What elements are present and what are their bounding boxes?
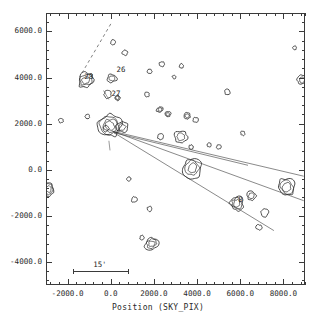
y-tick-right [302, 151, 305, 152]
x-tick-bottom [171, 282, 172, 285]
x-tick-top [93, 13, 94, 16]
y-tick-right [299, 124, 305, 125]
y-tick-left [46, 188, 49, 189]
y-tick-right [302, 253, 305, 254]
y-tick-label: 6000.0 [0, 27, 42, 35]
x-tick-bottom [240, 279, 241, 285]
y-tick-left [46, 271, 49, 272]
x-axis-title: Position (SKY_PIX) [0, 303, 316, 312]
y-tick-left [46, 234, 49, 235]
y-tick-right [302, 188, 305, 189]
x-tick-top [214, 13, 215, 16]
y-tick-left [46, 31, 52, 32]
y-tick-left [46, 142, 49, 143]
y-tick-right [299, 262, 305, 263]
y-tick-left [46, 262, 52, 263]
y-tick-left [46, 13, 49, 14]
y-tick-right [299, 31, 305, 32]
x-tick-bottom [214, 282, 215, 285]
y-tick-left [46, 280, 49, 281]
x-tick-bottom [249, 282, 250, 285]
y-tick-right [302, 142, 305, 143]
y-tick-right [302, 50, 305, 51]
x-tick-bottom [163, 282, 164, 285]
x-tick-top [258, 13, 259, 16]
y-tick-right [302, 271, 305, 272]
y-tick-left [46, 50, 49, 51]
y-tick-right [302, 68, 305, 69]
x-tick-bottom [128, 282, 129, 285]
y-tick-left [46, 244, 49, 245]
x-tick-label: 8000.0 [255, 290, 311, 298]
y-tick-right [302, 13, 305, 14]
x-tick-top [240, 13, 241, 19]
x-tick-top [249, 13, 250, 16]
y-tick-right [302, 133, 305, 134]
source-id-27: 27 [112, 90, 121, 98]
y-tick-left [46, 105, 49, 106]
x-tick-bottom [102, 282, 103, 285]
x-tick-bottom [266, 282, 267, 285]
x-tick-bottom [188, 282, 189, 285]
x-tick-top [76, 13, 77, 16]
x-tick-bottom [68, 279, 69, 285]
x-tick-bottom [59, 282, 60, 285]
y-tick-right [302, 280, 305, 281]
x-tick-top [223, 13, 224, 16]
y-tick-left [46, 253, 49, 254]
y-tick-left [46, 207, 49, 208]
y-tick-label: 4000.0 [0, 74, 42, 82]
x-tick-bottom [301, 282, 302, 285]
y-tick-label: 2000.0 [0, 120, 42, 128]
x-tick-bottom [232, 282, 233, 285]
x-tick-bottom [275, 282, 276, 285]
x-tick-bottom [145, 282, 146, 285]
y-tick-right [302, 161, 305, 162]
y-tick-right [302, 105, 305, 106]
y-tick-right [302, 114, 305, 115]
x-tick-bottom [258, 282, 259, 285]
x-tick-top [292, 13, 293, 16]
x-tick-top [50, 13, 51, 16]
x-tick-top [145, 13, 146, 16]
x-tick-bottom [223, 282, 224, 285]
y-tick-left [46, 151, 49, 152]
x-tick-bottom [197, 279, 198, 285]
x-tick-top [102, 13, 103, 16]
y-tick-right [302, 225, 305, 226]
y-tick-label: -4000.0 [0, 258, 42, 266]
x-tick-bottom [85, 282, 86, 285]
y-tick-label: -2000.0 [0, 212, 42, 220]
x-tick-top [85, 13, 86, 16]
x-tick-top [128, 13, 129, 16]
x-tick-bottom [76, 282, 77, 285]
x-tick-top [163, 13, 164, 16]
y-tick-left [46, 78, 52, 79]
y-tick-right [302, 59, 305, 60]
y-tick-right [299, 170, 305, 171]
x-tick-top [188, 13, 189, 16]
x-tick-bottom [180, 282, 181, 285]
y-tick-right [302, 197, 305, 198]
y-tick-left [46, 59, 49, 60]
y-tick-left [46, 41, 49, 42]
x-tick-top [283, 13, 284, 19]
source-id-8: 8 [238, 196, 242, 204]
y-tick-right [302, 179, 305, 180]
x-tick-bottom [154, 279, 155, 285]
x-tick-bottom [119, 282, 120, 285]
y-tick-left [46, 216, 52, 217]
x-tick-bottom [50, 282, 51, 285]
y-tick-left [46, 133, 49, 134]
x-tick-top [137, 13, 138, 16]
y-tick-right [302, 87, 305, 88]
y-tick-left [46, 114, 49, 115]
y-tick-right [299, 216, 305, 217]
x-tick-bottom [292, 282, 293, 285]
x-tick-bottom [111, 279, 112, 285]
y-tick-left [46, 161, 49, 162]
cropped-title [52, 0, 232, 8]
y-tick-left [46, 96, 49, 97]
x-tick-top [305, 13, 306, 16]
x-tick-top [171, 13, 172, 16]
